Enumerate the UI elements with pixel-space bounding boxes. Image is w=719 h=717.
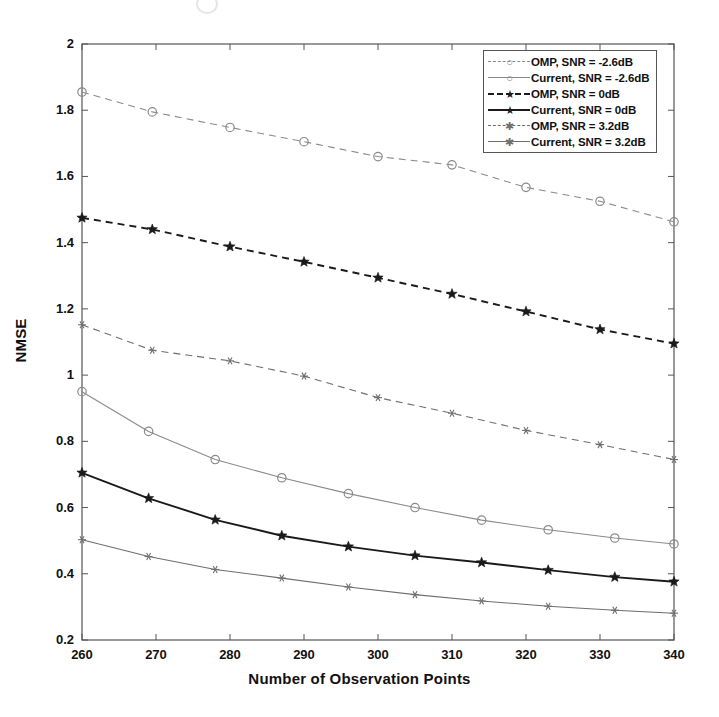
- data-point-marker: [610, 572, 620, 582]
- y-tick-label: 0.4: [34, 566, 74, 581]
- legend-entry: ○Current, SNR = -2.6dB: [484, 70, 656, 86]
- legend-star-icon: ★: [487, 103, 531, 117]
- legend-marker-glyph: ★: [504, 89, 515, 100]
- data-point-marker: [521, 306, 531, 316]
- x-axis-title: Number of Observation Points: [0, 670, 719, 687]
- data-point-marker: [543, 565, 553, 575]
- series-line: [82, 392, 674, 544]
- legend-asterisk-icon: ✱: [487, 135, 531, 149]
- legend-circle-icon: ○: [487, 55, 531, 69]
- series-2: [77, 212, 679, 348]
- legend-entry: ★Current, SNR = 0dB: [484, 102, 656, 118]
- legend-marker-glyph: ✱: [504, 121, 515, 132]
- series-line: [82, 473, 674, 582]
- data-point-marker: [210, 514, 220, 524]
- legend-label: OMP, SNR = 0dB: [531, 88, 620, 100]
- y-tick-label: 0.2: [34, 632, 74, 647]
- x-tick-label: 260: [60, 647, 104, 662]
- legend-label: Current, SNR = -2.6dB: [531, 72, 649, 84]
- legend-asterisk-icon: ✱: [487, 119, 531, 133]
- legend-marker-glyph: ○: [504, 57, 515, 68]
- x-tick-label: 270: [134, 647, 178, 662]
- series-1: [78, 387, 678, 548]
- y-tick-label: 1.8: [34, 102, 74, 117]
- x-tick-label: 310: [430, 647, 474, 662]
- legend-marker-glyph: ✱: [504, 137, 515, 148]
- data-point-marker: [225, 241, 235, 251]
- series-4: [78, 321, 678, 463]
- figure-canvas: Number of Observation Points NMSE 0.20.4…: [0, 0, 719, 717]
- data-point-marker: [343, 541, 353, 551]
- legend-label: OMP, SNR = 3.2dB: [531, 120, 629, 132]
- chart-legend: ○OMP, SNR = -2.6dB○Current, SNR = -2.6dB…: [483, 50, 657, 153]
- series-5: [78, 536, 678, 616]
- x-tick-label: 330: [578, 647, 622, 662]
- x-tick-label: 280: [208, 647, 252, 662]
- legend-circle-icon: ○: [487, 71, 531, 85]
- series-line: [82, 218, 674, 344]
- series-line: [82, 325, 674, 460]
- y-axis-title: NMSE: [12, 291, 29, 391]
- y-tick-label: 0.6: [34, 500, 74, 515]
- data-point-marker: [277, 530, 287, 540]
- x-tick-label: 300: [356, 647, 400, 662]
- x-tick-label: 290: [282, 647, 326, 662]
- legend-entry: ✱Current, SNR = 3.2dB: [484, 134, 656, 150]
- y-tick-label: 0.8: [34, 433, 74, 448]
- y-tick-label: 1: [34, 367, 74, 382]
- legend-entry: ★OMP, SNR = 0dB: [484, 86, 656, 102]
- data-point-marker: [299, 256, 309, 266]
- legend-marker-glyph: ○: [504, 73, 515, 84]
- data-point-marker: [476, 557, 486, 567]
- data-point-marker: [143, 493, 153, 503]
- legend-label: Current, SNR = 0dB: [531, 104, 636, 116]
- y-tick-label: 1.4: [34, 235, 74, 250]
- data-point-marker: [300, 137, 308, 145]
- x-tick-label: 340: [652, 647, 696, 662]
- legend-label: Current, SNR = 3.2dB: [531, 136, 646, 148]
- data-point-marker: [595, 324, 605, 334]
- data-point-marker: [447, 289, 457, 299]
- y-tick-label: 2: [34, 36, 74, 51]
- legend-label: OMP, SNR = -2.6dB: [531, 56, 633, 68]
- y-tick-label: 1.6: [34, 168, 74, 183]
- x-tick-label: 320: [504, 647, 548, 662]
- data-point-marker: [147, 224, 157, 234]
- legend-entry: ✱OMP, SNR = 3.2dB: [484, 118, 656, 134]
- y-tick-label: 1.2: [34, 301, 74, 316]
- legend-marker-glyph: ★: [504, 105, 515, 116]
- data-point-marker: [226, 123, 234, 131]
- data-point-marker: [373, 272, 383, 282]
- data-point-marker: [410, 550, 420, 560]
- legend-star-icon: ★: [487, 87, 531, 101]
- series-3: [77, 467, 679, 586]
- legend-entry: ○OMP, SNR = -2.6dB: [484, 54, 656, 70]
